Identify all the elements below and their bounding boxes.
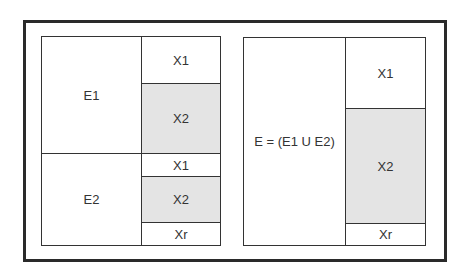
left-panel: E1 E2 X1 X2 X1 X2 Xr [41, 36, 221, 246]
subset-label: X2 [173, 192, 189, 207]
event-e2: E2 [42, 153, 141, 245]
subset-xr: Xr [141, 222, 220, 245]
subset-x2: X2 [345, 108, 425, 223]
event-union: E = (E1 U E2) [244, 38, 345, 245]
subset-xr: Xr [345, 223, 425, 245]
subset-label: X1 [378, 66, 394, 81]
right-panel: E = (E1 U E2) X1 X2 Xr [243, 37, 426, 246]
event-e1-label: E1 [84, 88, 100, 103]
event-e2-label: E2 [84, 192, 100, 207]
subset-label: X1 [173, 53, 189, 68]
event-e1: E1 [42, 37, 141, 153]
subset-label: X2 [378, 159, 394, 174]
subset-label: Xr [175, 227, 188, 242]
subset-x1-e1: X1 [141, 37, 220, 83]
subset-x2-e2: X2 [141, 176, 220, 222]
subset-x1-e2: X1 [141, 153, 220, 176]
subset-label: X2 [173, 111, 189, 126]
subset-label: Xr [379, 227, 392, 242]
subset-x1: X1 [345, 38, 425, 108]
event-union-label: E = (E1 U E2) [254, 134, 335, 149]
subset-x2-e1: X2 [141, 83, 220, 153]
subset-label: X1 [173, 158, 189, 173]
